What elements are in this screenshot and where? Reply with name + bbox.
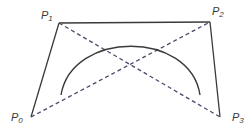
bezier-diagram xyxy=(0,0,252,131)
edge-p1-p2 xyxy=(59,22,210,23)
control-polygon-solid xyxy=(31,22,220,117)
edge-p2-p3 xyxy=(210,22,220,117)
diagonal-p1-p3 xyxy=(59,23,220,117)
label-p1-sub: 1 xyxy=(48,14,52,23)
label-p1: P1 xyxy=(41,10,53,23)
label-p0-sub: 0 xyxy=(18,116,22,125)
label-p3: P3 xyxy=(232,112,244,125)
edge-p0-p1 xyxy=(31,23,59,117)
bezier-curve xyxy=(61,46,200,95)
label-p2: P2 xyxy=(212,6,224,19)
control-polygon-dashed xyxy=(31,22,220,117)
label-p3-sub: 3 xyxy=(239,116,243,125)
label-p2-sub: 2 xyxy=(219,10,223,19)
diagonal-p0-p2 xyxy=(31,22,210,117)
label-p0: P0 xyxy=(11,112,23,125)
